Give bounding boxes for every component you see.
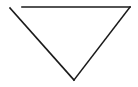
right-edge — [74, 7, 130, 80]
triangle-diagram — [0, 0, 138, 87]
diagram-canvas — [0, 0, 138, 87]
left-edge — [10, 8, 74, 80]
